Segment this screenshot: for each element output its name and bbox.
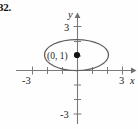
x-axis-arrow-icon — [131, 68, 137, 74]
y-tick-label-minus3: -3 — [60, 109, 69, 120]
x-tick-label-minus3: -3 — [22, 75, 31, 86]
y-tick-label-3: 3 — [64, 22, 69, 33]
center-point-label: (0, 1) — [47, 51, 68, 62]
x-axis-label: x — [129, 75, 135, 86]
center-point-marker — [74, 52, 80, 58]
figure-container: 32. -3 3 3 -3 x y (0, 1) — [0, 0, 138, 129]
y-axis-label: y — [67, 9, 73, 20]
x-tick-label-3: 3 — [119, 75, 124, 86]
y-axis-arrow-icon — [75, 13, 81, 19]
coordinate-plot: -3 3 3 -3 x y (0, 1) — [0, 0, 138, 129]
